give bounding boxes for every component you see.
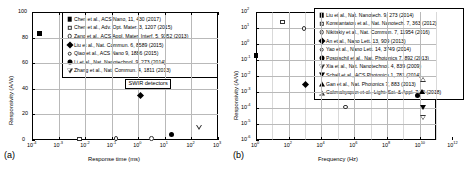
- legend-label: Nikitskiy et al., Nat. Commun. 7, 11954 …: [326, 30, 430, 35]
- x-axis-title-a: Response time (ms): [88, 157, 140, 163]
- x-tick-top: [85, 12, 86, 15]
- legend-label: Chen et al., Adv. Opt. Mater. 3, 1207 (2…: [74, 25, 172, 30]
- grid-line-horizontal: [256, 60, 436, 61]
- x-tick-top: [218, 12, 219, 15]
- y-tick: [256, 108, 259, 109]
- x-tick-top: [165, 12, 166, 15]
- figure-container: (a) Responsivity (A/W) Response time (ms…: [0, 0, 465, 172]
- panel-a-tag: (a): [4, 150, 15, 160]
- legend-marker: [65, 67, 74, 76]
- x-tick-top: [59, 12, 60, 15]
- grid-line-vertical: [165, 12, 166, 140]
- grid-line-horizontal: [256, 124, 436, 125]
- legend-label: Xia et al., Nat. Nanotechnol. 4, 839 (20…: [326, 64, 421, 69]
- data-point: [343, 105, 348, 110]
- data-point: [254, 53, 259, 58]
- x-tick-label: 100: [133, 143, 141, 148]
- y-tick-label: 40: [22, 86, 28, 91]
- marker-open-down-triangle: [67, 68, 73, 73]
- y-tick-label: 10-4: [241, 105, 250, 110]
- x-tick-label: 102: [284, 143, 292, 148]
- legend-label: Liu et al., Nat. Commun. 6, 8589 (2015): [74, 43, 163, 48]
- y-tick-label: 80: [22, 35, 28, 40]
- x-tick-top: [191, 12, 192, 15]
- y-tick-label: 20: [22, 111, 28, 116]
- grid-line-horizontal: [32, 38, 218, 39]
- y-tick-label: 10-5: [241, 121, 250, 126]
- swir-annotation: SWIR detectors: [125, 79, 171, 89]
- legend-label: Zhang et al., Nat. Commun. 4, 1811 (2013…: [74, 68, 171, 73]
- y-tick: [32, 89, 35, 90]
- y-tick: [256, 28, 259, 29]
- legend-label: Qiao et al., ACS Nano 9, 1886 (2015): [74, 51, 158, 56]
- y-tick: [256, 60, 259, 61]
- legend-b: Liu et al., Nat. Nanotech. 9, 273 (2014)…: [314, 8, 464, 100]
- data-point: [37, 31, 42, 36]
- y-tick: [256, 124, 259, 125]
- legend-marker: [65, 49, 74, 58]
- x-tick-label: 1010: [415, 143, 425, 148]
- x-tick-label: 104: [316, 143, 324, 148]
- marker-filled-diamond: [66, 42, 73, 49]
- y-tick-label: 100: [18, 9, 27, 14]
- grid-line-horizontal: [256, 28, 436, 29]
- grid-line-horizontal: [256, 76, 436, 77]
- x-axis-title-b: Frequency (Hz): [318, 157, 358, 163]
- data-point: [280, 20, 284, 24]
- data-point: [77, 137, 81, 141]
- y-tick: [32, 114, 35, 115]
- panel-b-tag: (b): [233, 150, 244, 160]
- grid-line-horizontal: [256, 44, 436, 45]
- grid-line-vertical: [191, 12, 192, 140]
- x-tick-label: 10-4: [27, 143, 36, 148]
- data-point: [420, 115, 426, 120]
- grid-line-horizontal: [32, 63, 218, 64]
- data-point: [420, 105, 426, 110]
- x-tick-top: [112, 12, 113, 15]
- y-tick-label: 10-2: [241, 73, 250, 78]
- y-tick: [32, 63, 35, 64]
- y-tick-label: 101: [241, 25, 249, 30]
- panel-a: (a) Responsivity (A/W) Response time (ms…: [0, 0, 232, 172]
- y-tick: [256, 12, 259, 13]
- y-tick-label: 100: [241, 41, 249, 46]
- y-tick-label: 60: [22, 60, 28, 65]
- x-tick-label: 108: [382, 143, 390, 148]
- y-tick-label: 10-1: [241, 57, 250, 62]
- x-tick-label: 1012: [447, 143, 457, 148]
- grid-line-vertical: [85, 12, 86, 140]
- x-tick-label: 106: [349, 143, 357, 148]
- legend-marker: [65, 24, 74, 33]
- data-point: [169, 132, 174, 137]
- x-tick-label: 102: [186, 143, 194, 148]
- y-tick: [256, 92, 259, 93]
- grid-line-vertical: [112, 12, 113, 140]
- marker-open-square: [67, 26, 71, 30]
- y-tick: [32, 12, 35, 13]
- x-tick-label: 10-2: [80, 143, 89, 148]
- legend-marker: [65, 32, 74, 41]
- legend-marker: [65, 41, 74, 50]
- x-tick-label: 10-3: [54, 143, 63, 148]
- data-point: [149, 136, 154, 141]
- y-axis-title-b: Responsivity (A/W): [234, 71, 240, 120]
- data-point: [419, 89, 425, 94]
- data-point: [196, 125, 202, 130]
- y-tick: [256, 76, 259, 77]
- y-tick: [256, 140, 259, 141]
- data-point: [420, 77, 426, 82]
- grid-line-vertical: [138, 12, 139, 140]
- data-point: [114, 136, 119, 141]
- y-tick: [32, 140, 35, 141]
- grid-line-horizontal: [256, 92, 436, 93]
- x-tick-label: 100: [251, 143, 259, 148]
- panel-b: (b) Responsivity (A/W) Frequency (Hz) Li…: [232, 0, 465, 172]
- legend-label: Chen et al., ACS Nano, 11, 430 (2017): [74, 17, 161, 22]
- y-tick-label: 10-3: [241, 89, 250, 94]
- y-tick: [256, 44, 259, 45]
- x-tick-label: 10-1: [107, 143, 116, 148]
- marker-open-circle: [67, 51, 72, 56]
- y-tick: [32, 38, 35, 39]
- x-tick-label: 101: [160, 143, 168, 148]
- y-axis-title-a: Responsivity (A/W): [9, 76, 15, 125]
